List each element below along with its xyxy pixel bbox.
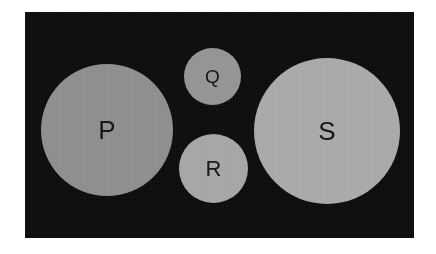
- circle-p: P: [41, 64, 173, 196]
- circle-p-label: P: [98, 117, 115, 143]
- circle-s-label: S: [318, 118, 335, 144]
- circle-r-label: R: [206, 158, 222, 180]
- figure-canvas: P Q R S: [0, 0, 436, 254]
- circle-r: R: [179, 134, 248, 203]
- diagram-panel: P Q R S: [25, 12, 414, 238]
- circle-q: Q: [184, 48, 241, 105]
- circle-s: S: [254, 58, 400, 204]
- circle-q-label: Q: [205, 67, 220, 86]
